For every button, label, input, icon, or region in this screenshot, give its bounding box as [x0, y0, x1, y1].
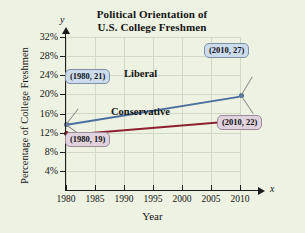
series-label-conservative: Conservative: [111, 106, 170, 117]
x-axis-title: Year: [0, 210, 305, 222]
x-axis-letter: x: [270, 183, 274, 194]
callout-liberal-2010: (2010, 27): [204, 43, 249, 58]
y-axis-tick: [60, 152, 66, 153]
gridline-horizontal: [66, 37, 241, 38]
x-axis-tick: [124, 185, 125, 191]
chart-title-line-2: U.S. College Freshmen: [62, 21, 242, 34]
y-axis-tick: [60, 94, 66, 95]
chart-title-line-1: Political Orientation of: [62, 8, 242, 21]
y-axis-tick: [60, 56, 66, 57]
gridline-horizontal: [66, 152, 241, 153]
plot-area: Liberal Conservative: [66, 37, 241, 190]
y-axis-letter: y: [60, 14, 64, 25]
callout-leader-line: [241, 95, 254, 114]
y-axis-tick: [60, 37, 66, 38]
x-axis-tick: [240, 185, 241, 191]
x-axis-tick: [153, 185, 154, 191]
gridline-horizontal: [66, 171, 241, 172]
chart-title: Political Orientation of U.S. College Fr…: [62, 8, 242, 34]
chart-figure: Political Orientation of U.S. College Fr…: [0, 0, 305, 233]
y-axis-tick: [60, 114, 66, 115]
callout-leader-line: [241, 76, 253, 95]
x-axis-tick-label: 2010: [223, 194, 257, 205]
callout-conservative-2010: (2010, 22): [217, 115, 262, 130]
x-axis-tick: [211, 185, 212, 191]
y-axis-arrow-icon: [62, 27, 70, 34]
x-axis-tick: [95, 185, 96, 191]
y-axis-title: Percentage of College Freshmen: [19, 41, 30, 191]
y-axis-tick: [60, 171, 66, 172]
x-axis-arrow-icon: [258, 187, 265, 195]
x-axis-tick: [66, 185, 67, 191]
x-axis-tick: [182, 185, 183, 191]
series-label-liberal: Liberal: [124, 68, 157, 79]
callout-conservative-1980: (1980, 19): [65, 132, 110, 147]
gridline-horizontal: [66, 94, 241, 95]
callout-liberal-1980: (1980, 21): [65, 69, 110, 84]
